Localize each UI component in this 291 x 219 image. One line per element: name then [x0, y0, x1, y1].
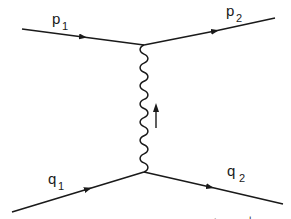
label-q1: q — [48, 170, 56, 187]
momentum-arrow-icon — [153, 103, 159, 128]
feynman-diagram: p 1 p 2 q 1 q 2 + + — [0, 0, 291, 219]
fermion-line-q2 — [144, 172, 283, 204]
footer-glyph-left: + — [212, 215, 218, 219]
fermion-line-p1 — [22, 29, 144, 45]
label-q2: q — [227, 162, 235, 179]
label-q1-subscript: 1 — [58, 180, 64, 192]
fermion-line-p2 — [144, 18, 275, 45]
label-p2: p — [226, 2, 234, 19]
footer-glyph-right: + — [247, 213, 253, 219]
photon-propagator — [140, 45, 148, 172]
label-p1: p — [52, 10, 60, 27]
label-p1-subscript: 1 — [62, 20, 68, 32]
label-p2-subscript: 2 — [236, 12, 242, 24]
label-q2-subscript: 2 — [239, 172, 245, 184]
fermion-line-q1 — [12, 172, 144, 212]
